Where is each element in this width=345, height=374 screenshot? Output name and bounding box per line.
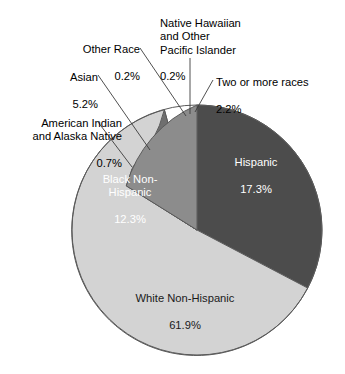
label-white-non-hispanic: White Non-Hispanic 61.9% <box>113 279 257 332</box>
label-two-or-more-races-name: Two or more races <box>216 76 309 88</box>
label-american-indian-name: American Indian and Alaska Native <box>32 117 122 142</box>
label-other-race-pct: 0.2% <box>115 70 141 82</box>
label-other-race-name: Other Race <box>83 43 140 55</box>
label-hispanic: Hispanic 17.3% <box>213 143 299 196</box>
label-other-race: Other Race 0.2% <box>48 30 140 83</box>
label-hispanic-pct: 17.3% <box>240 183 272 195</box>
label-black-non-hispanic-name: Black Non- Hispanic <box>103 173 158 198</box>
label-black-non-hispanic-pct: 12.3% <box>114 213 146 225</box>
pie-chart-figure: American Indian and Alaska Native 0.7% A… <box>0 0 345 374</box>
label-two-or-more-races-pct: 2.2% <box>216 103 242 115</box>
label-black-non-hispanic: Black Non- Hispanic 12.3% <box>90 160 170 226</box>
label-native-hawaiian-name: Native Hawaiian and Other Pacific Island… <box>160 17 241 55</box>
label-white-non-hispanic-name: White Non-Hispanic <box>136 292 235 304</box>
label-hispanic-name: Hispanic <box>235 156 278 168</box>
label-native-hawaiian-pct: 0.2% <box>160 70 186 82</box>
label-white-non-hispanic-pct: 61.9% <box>169 319 201 331</box>
label-asian-pct: 5.2% <box>73 98 99 110</box>
label-two-or-more-races: Two or more races 2.2% <box>216 63 344 116</box>
